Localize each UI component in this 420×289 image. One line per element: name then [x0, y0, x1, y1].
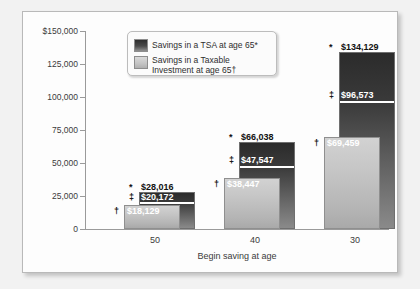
marker-doubledagger-50: ‡ [129, 192, 134, 202]
value-label-taxable-30: $69,459 [327, 138, 360, 148]
y-tick [80, 31, 85, 32]
marker-asterisk-50: * [129, 182, 133, 192]
x-tick-label-40: 40 [225, 235, 285, 245]
chart-panel: $150,000 125,000 100,000 75,000 50,000 2… [22, 11, 398, 273]
y-tick-label: 25,000 [24, 192, 78, 201]
value-label-aftertax-40: $47,547 [241, 155, 274, 165]
plot-area: $150,000 125,000 100,000 75,000 50,000 2… [23, 12, 399, 274]
bar-taxable-30 [324, 137, 380, 229]
y-tick-label: 100,000 [24, 93, 78, 102]
marker-dagger-30: † [314, 138, 319, 148]
y-axis-line [85, 31, 86, 229]
chart-screenshot: $150,000 125,000 100,000 75,000 50,000 2… [0, 0, 420, 289]
x-axis-title: Begin saving at age [85, 251, 389, 261]
value-label-tsa-30: $134,129 [341, 42, 379, 52]
legend-swatch-tsa [134, 39, 148, 52]
marker-doubledagger-40: ‡ [229, 155, 234, 165]
y-tick [80, 97, 85, 98]
value-label-aftertax-50: $20,172 [141, 192, 174, 202]
value-label-taxable-50: $18,129 [127, 206, 160, 216]
marker-dagger-40: † [214, 179, 219, 189]
bar-divider-50 [140, 202, 194, 204]
legend-label-taxable-line2: Investment at age 65† [152, 65, 236, 76]
chart-legend: Savings in a TSA at age 65* Savings in a… [127, 31, 277, 76]
y-tick [80, 229, 85, 230]
x-axis-line [85, 229, 389, 230]
y-tick-label: $150,000 [24, 27, 78, 36]
value-label-tsa-50: $28,016 [141, 182, 174, 192]
y-tick [80, 64, 85, 65]
marker-doubledagger-30: ‡ [329, 90, 334, 100]
bar-divider-30 [340, 101, 394, 103]
y-tick-label: 50,000 [24, 159, 78, 168]
y-tick [80, 130, 85, 131]
marker-asterisk-30: * [329, 42, 333, 52]
y-tick-label: 0 [24, 225, 78, 234]
value-label-taxable-40: $38,447 [227, 179, 260, 189]
bar-divider-40 [240, 166, 294, 168]
y-tick [80, 163, 85, 164]
legend-swatch-taxable [134, 56, 148, 69]
y-tick-label: 75,000 [24, 126, 78, 135]
y-tick [80, 196, 85, 197]
y-tick-label: 125,000 [24, 60, 78, 69]
x-tick-label-50: 50 [125, 235, 185, 245]
legend-label-tsa: Savings in a TSA at age 65* [152, 40, 258, 51]
marker-asterisk-40: * [229, 132, 233, 142]
value-label-tsa-40: $66,038 [241, 132, 274, 142]
x-tick-label-30: 30 [325, 235, 385, 245]
marker-dagger-50: † [114, 206, 119, 216]
value-label-aftertax-30: $96,573 [341, 90, 374, 100]
legend-label-taxable-line1: Savings in a Taxable [152, 55, 230, 66]
